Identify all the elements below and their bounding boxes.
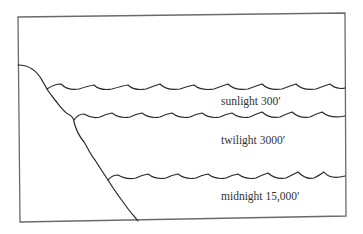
continental-slope-line	[18, 65, 138, 221]
sunlight-zone-label: sunlight 300′	[221, 96, 281, 108]
ocean-zones-diagram	[0, 0, 363, 234]
midnight-zone-label: midnight 15,000′	[221, 191, 300, 203]
sunlight-boundary-wave	[47, 84, 345, 90]
midnight-boundary-wave	[108, 172, 345, 180]
twilight-zone-label: twilight 3000′	[221, 135, 285, 147]
twilight-boundary-wave	[74, 112, 345, 120]
